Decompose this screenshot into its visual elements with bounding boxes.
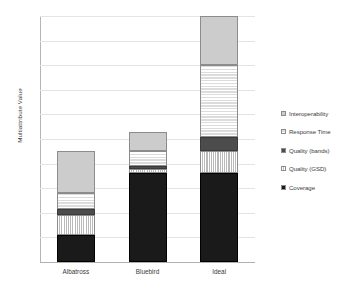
legend-item-label: Quality (bands) — [289, 147, 330, 154]
bar-segment-coverage[interactable] — [200, 173, 238, 262]
bar-stack — [129, 16, 167, 262]
x-tick-label: Bluebird — [110, 268, 186, 275]
legend-item-interoperability[interactable]: Interoperability — [281, 104, 357, 123]
chart-legend: InteroperabilityResponse TimeQuality (ba… — [281, 104, 357, 197]
bar-group[interactable] — [200, 16, 238, 262]
bar-segment-coverage[interactable] — [129, 173, 167, 262]
y-axis-title: Multiattribute Value — [16, 61, 23, 171]
bar-segment-quality-gsd[interactable] — [57, 215, 95, 235]
legend-item-label: Coverage — [289, 184, 315, 191]
bar-segment-quality-gsd[interactable] — [200, 151, 238, 173]
bar-segment-response-time[interactable] — [57, 193, 95, 209]
bar-group[interactable] — [129, 16, 167, 262]
legend-item-label: Interoperability — [289, 110, 328, 117]
bar-segment-interoperability[interactable] — [129, 132, 167, 152]
bar-segment-interoperability[interactable] — [57, 151, 95, 193]
legend-item-label: Quality (GSD) — [289, 165, 326, 172]
legend-swatch-icon — [281, 166, 286, 171]
plot-area: 0102030405060708090100 AlbatrossBluebird… — [40, 16, 255, 262]
bar-segment-interoperability[interactable] — [200, 16, 238, 65]
bar-segment-quality-bands[interactable] — [57, 209, 95, 215]
legend-item-quality-gsd[interactable]: Quality (GSD) — [281, 160, 357, 179]
legend-swatch-icon — [281, 148, 286, 153]
bar-segment-coverage[interactable] — [57, 235, 95, 262]
bar-group[interactable] — [57, 16, 95, 262]
legend-swatch-icon — [281, 185, 286, 190]
legend-swatch-icon — [281, 129, 286, 134]
bar-segment-quality-bands[interactable] — [200, 137, 238, 152]
legend-item-quality-bands[interactable]: Quality (bands) — [281, 141, 357, 160]
legend-item-label: Response Time — [289, 128, 331, 135]
bar-segment-response-time[interactable] — [200, 65, 238, 136]
bar-segment-quality-bands[interactable] — [129, 166, 167, 168]
legend-item-coverage[interactable]: Coverage — [281, 178, 357, 197]
legend-swatch-icon — [281, 111, 286, 116]
bar-stack — [57, 16, 95, 262]
x-tick-label: Ideal — [181, 268, 257, 275]
bar-stack — [200, 16, 238, 262]
legend-item-response-time[interactable]: Response Time — [281, 123, 357, 142]
bar-segment-response-time[interactable] — [129, 151, 167, 166]
stacked-bar-chart: Multiattribute Value 0102030405060708090… — [0, 0, 359, 295]
gridline — [40, 262, 255, 263]
x-tick-label: Albatross — [38, 268, 114, 275]
bar-segment-quality-gsd[interactable] — [129, 169, 167, 174]
